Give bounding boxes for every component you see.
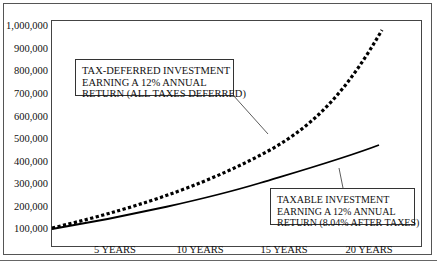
callout-pointer-tax-deferred <box>233 95 268 134</box>
callout-line: RETURN (8.04% AFTER TAXES) <box>277 217 408 229</box>
callout-line: TAXABLE INVESTMENT <box>277 194 408 206</box>
callout-taxable: TAXABLE INVESTMENT EARNING A 12% ANNUAL … <box>270 188 415 225</box>
callout-tax-deferred: TAX-DEFERRED INVESTMENT EARNING A 12% AN… <box>75 59 234 96</box>
callout-line: RETURN (ALL TAXES DEFERRED) <box>82 88 227 100</box>
callout-line: TAX-DEFERRED INVESTMENT <box>82 65 227 77</box>
chart-lines <box>0 0 437 271</box>
page-divider <box>0 260 437 261</box>
callout-pointer-taxable <box>339 168 343 188</box>
callout-line: EARNING A 12% ANNUAL <box>82 77 227 89</box>
callout-line: EARNING A 12% ANNUAL <box>277 206 408 218</box>
